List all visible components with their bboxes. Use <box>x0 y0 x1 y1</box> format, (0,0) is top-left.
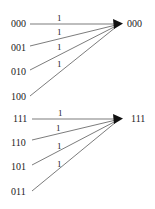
source-label: 011 <box>11 186 26 197</box>
edge-weight: 1 <box>57 27 62 37</box>
edge-weight: 1 <box>57 13 62 23</box>
edge-line <box>30 25 116 46</box>
edge-weight: 1 <box>58 108 63 118</box>
target-label: 000 <box>127 18 142 29</box>
source-label: 101 <box>11 161 26 172</box>
source-label: 111 <box>13 113 27 124</box>
group-111: 111 110 101 011 1 1 1 1 111 <box>11 108 145 197</box>
arrowhead-icon <box>113 114 123 124</box>
edge-weight: 1 <box>57 59 62 69</box>
source-label: 110 <box>11 137 26 148</box>
edge-line <box>32 120 116 140</box>
source-label: 000 <box>11 18 26 29</box>
edge-weight: 1 <box>57 159 62 169</box>
source-label: 100 <box>11 91 26 102</box>
source-label: 010 <box>11 66 26 77</box>
source-label: 001 <box>11 42 26 53</box>
edge-line <box>32 122 116 191</box>
group-000: 000 001 010 100 1 1 1 1 000 <box>11 13 142 102</box>
diagram-canvas: 000 001 010 100 1 1 1 1 000 111 110 101 … <box>0 0 155 209</box>
edge-line <box>30 27 116 96</box>
edge-weight: 1 <box>56 123 61 133</box>
target-label: 111 <box>131 113 145 124</box>
edge-line <box>32 121 116 165</box>
edge-weight: 1 <box>57 42 62 52</box>
state-transition-diagram: 000 001 010 100 1 1 1 1 000 111 110 101 … <box>0 0 155 209</box>
arrowhead-icon <box>113 19 123 29</box>
edge-line <box>30 26 116 70</box>
edge-weight: 1 <box>57 141 62 151</box>
